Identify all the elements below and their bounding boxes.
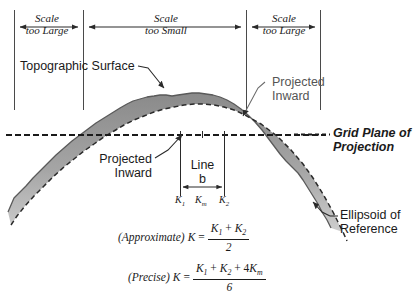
precise-numerator: K1 + K2 + 4Km [193, 262, 266, 280]
grid-plane-line1: Grid Plane of [333, 126, 411, 140]
scale-band-middle-line1: Scale [136, 12, 196, 24]
projected-inward-right-label: Projected Inward [272, 75, 325, 103]
ellipsoid-line2: Reference [340, 222, 400, 236]
ellipsoid-of-reference-label: Ellipsoid of Reference [340, 208, 400, 236]
topographic-surface-leader [138, 66, 164, 88]
approximate-equals: = [198, 231, 205, 244]
scale-band-right-line2: too Large [254, 24, 314, 36]
projected-inward-left-label: Projected Inward [84, 152, 152, 180]
scale-factor-diagram: Scale too Large Scale too Small Scale to… [0, 0, 415, 302]
precise-lhs: K [173, 271, 181, 284]
line-b-label: Line b [181, 158, 224, 186]
precise-qualifier: (Precise) [128, 271, 170, 284]
scale-band-label-left: Scale too Large [18, 12, 76, 37]
precise-num-k2-sub: 2 [227, 268, 231, 277]
projected-inward-left-leader [155, 135, 182, 158]
precise-num-plus2: + [234, 262, 241, 274]
precise-denominator: 6 [226, 280, 232, 293]
approximate-numerator: K1 + K2 [208, 222, 249, 240]
line-b-label-line1: Line [181, 158, 224, 172]
scale-band-left-line2: too Large [18, 24, 76, 36]
k-marker-1-symbol: K [175, 194, 182, 205]
k-marker-2-subscript: 2 [226, 200, 229, 207]
approximate-num-k2-sub: 2 [242, 228, 246, 237]
approximate-lhs: K [188, 231, 196, 244]
approximate-formula: (Approximate) K = K1 + K2 2 [118, 222, 249, 253]
precise-fraction: K1 + K2 + 4Km 6 [193, 262, 266, 293]
precise-formula: (Precise) K = K1 + K2 + 4Km 6 [128, 262, 266, 293]
k-marker-1: K1 [175, 194, 185, 208]
approximate-num-plus: + [225, 222, 232, 234]
approximate-num-k1-sub: 1 [218, 228, 222, 237]
precise-num-k1-sub: 1 [204, 268, 208, 277]
precise-equals: = [183, 271, 190, 284]
projected-inward-right-line1: Projected [272, 75, 325, 89]
precise-num-plus1: + [210, 262, 217, 274]
approximate-qualifier: (Approximate) [118, 231, 185, 244]
k-marker-1-subscript: 1 [182, 200, 185, 207]
precise-num-km: K [249, 262, 257, 274]
topographic-surface-label: Topographic Surface [20, 59, 135, 73]
grid-plane-of-projection-label: Grid Plane of Projection [333, 126, 411, 154]
k-marker-m-subscript: m [202, 200, 207, 207]
precise-num-km-sub: m [257, 268, 263, 277]
approximate-denominator: 2 [226, 240, 232, 253]
scale-band-label-middle: Scale too Small [136, 12, 196, 37]
scale-band-label-right: Scale too Large [254, 12, 314, 37]
projected-inward-left-line1: Projected [84, 152, 152, 166]
k-marker-2: K2 [219, 194, 229, 208]
k-marker-m-symbol: K [195, 194, 202, 205]
k-marker-m: Km [195, 194, 207, 208]
scale-band-middle-line2: too Small [136, 24, 196, 36]
ellipsoid-line1: Ellipsoid of [340, 208, 400, 222]
scale-band-left-line1: Scale [18, 12, 76, 24]
projected-inward-right-line2: Inward [272, 89, 325, 103]
grid-plane-line2: Projection [333, 140, 411, 154]
precise-num-k1: K [196, 262, 204, 274]
topographic-surface-band [8, 93, 343, 232]
scale-band-right-line1: Scale [254, 12, 314, 24]
k-marker-2-symbol: K [219, 194, 226, 205]
projected-inward-left-line2: Inward [84, 166, 152, 180]
line-b-label-line2: b [181, 172, 224, 186]
approximate-fraction: K1 + K2 2 [208, 222, 249, 253]
